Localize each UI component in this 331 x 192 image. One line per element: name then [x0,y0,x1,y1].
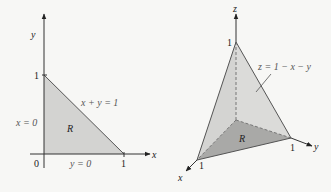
right-figure: z x y 1 1 1 R z = 1 − x − y [177,3,319,183]
tick-y-3d-label: 1 [290,142,295,153]
origin-label: 0 [34,158,39,169]
x-axis-label: x [151,149,157,160]
hypotenuse-label: x + y = 1 [80,97,118,108]
diagram-canvas: y x 1 1 0 R x + y = 1 x = 0 y = 0 z x y … [0,0,331,192]
left-figure: y x 1 1 0 R x + y = 1 x = 0 y = 0 [15,14,157,169]
bottom-edge-label: y = 0 [69,158,91,169]
tick-z-label: 1 [227,37,232,48]
surface-label: z = 1 − x − y [257,61,312,72]
left-edge-label: x = 0 [15,117,37,128]
tick-y-label: 1 [34,70,39,81]
tick-x-label: 1 [121,158,126,169]
region-label: R [66,123,73,134]
y-axis-label: y [30,29,36,40]
region-3d-label: R [238,133,245,144]
y-axis-3d-label: y [313,141,319,152]
x-axis-3d [186,160,197,171]
x-axis-3d-label: x [177,172,183,183]
z-axis-label: z [232,3,237,14]
tick-x-3d-label: 1 [199,160,204,171]
